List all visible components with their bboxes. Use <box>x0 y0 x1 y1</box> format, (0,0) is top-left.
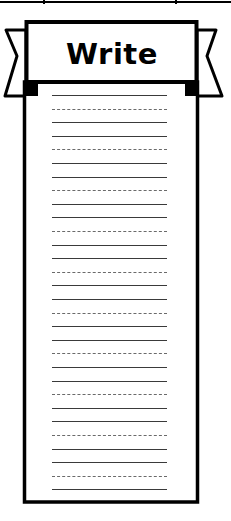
writing-line-midline <box>52 353 167 354</box>
writing-lines <box>52 0 167 521</box>
writing-line-midline <box>52 394 167 395</box>
writing-line <box>52 408 167 409</box>
writing-line <box>52 462 167 463</box>
writing-line-midline <box>52 272 167 273</box>
writing-line <box>52 285 167 286</box>
ribbon-tail-right <box>197 30 222 96</box>
writing-line-midline <box>52 190 167 191</box>
writing-line <box>52 421 167 422</box>
writing-line <box>52 367 167 368</box>
writing-line <box>52 177 167 178</box>
ribbon-fold-left <box>26 82 38 96</box>
writing-line <box>52 299 167 300</box>
writing-line <box>52 245 167 246</box>
writing-line <box>52 449 167 450</box>
writing-line-midline <box>52 149 167 150</box>
writing-line <box>52 489 167 490</box>
writing-line <box>52 381 167 382</box>
writing-line <box>52 204 167 205</box>
writing-line <box>52 136 167 137</box>
writing-line-midline <box>52 435 167 436</box>
writing-line <box>52 163 167 164</box>
writing-line-midline <box>52 109 167 110</box>
writing-line-midline <box>52 313 167 314</box>
writing-line <box>52 122 167 123</box>
writing-line <box>52 95 167 96</box>
writing-line <box>52 340 167 341</box>
writing-line <box>52 217 167 218</box>
writing-line <box>52 326 167 327</box>
writing-line-midline <box>52 231 167 232</box>
ribbon-fold-right <box>185 82 197 96</box>
writing-line-midline <box>52 476 167 477</box>
writing-line <box>52 258 167 259</box>
